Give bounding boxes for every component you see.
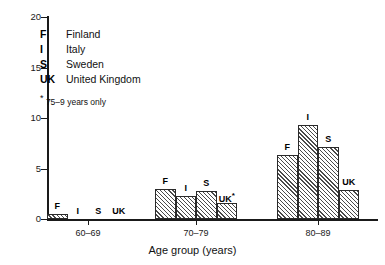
y-tick-label: 0: [19, 214, 41, 224]
bar-label: S: [325, 135, 331, 144]
bar: [318, 147, 339, 219]
bar-label: F: [55, 202, 61, 211]
bar-label: I: [184, 184, 187, 193]
footnote-star-icon: *: [40, 93, 44, 103]
bar-label: I: [306, 113, 309, 122]
bar-label: UK: [112, 207, 125, 216]
bar-label: UK*: [219, 191, 235, 204]
x-axis-line: [47, 219, 378, 221]
bar-label: F: [285, 143, 291, 152]
y-tick: 0: [0, 219, 47, 220]
bar: [155, 189, 176, 219]
bar-label: F: [163, 177, 169, 186]
y-tick-label: 15: [19, 63, 41, 73]
y-tick: 20: [0, 17, 47, 18]
y-tick-mark: [41, 17, 47, 18]
legend-item-label: Finland: [66, 28, 100, 41]
bar-label: UK: [342, 178, 355, 187]
bar: [339, 190, 360, 219]
bar-label: I: [76, 207, 79, 216]
bar-label: S: [203, 179, 209, 188]
y-tick-mark: [41, 169, 47, 170]
bar: [298, 125, 319, 219]
legend-item: SSweden: [40, 58, 141, 73]
legend-item-label: United Kingdom: [66, 73, 141, 86]
x-tick-mark: [318, 221, 319, 225]
legend: FFinlandIItalySSwedenUKUnited Kingdom * …: [40, 28, 141, 108]
legend-item-label: Italy: [66, 43, 85, 56]
bar-label-star-icon: *: [232, 191, 235, 200]
bar: [176, 196, 197, 219]
x-group-label: 60–69: [75, 228, 100, 238]
legend-item-key: I: [40, 43, 66, 56]
bar: [277, 155, 298, 219]
legend-item-key: S: [40, 58, 66, 71]
x-group-label: 80–89: [305, 228, 330, 238]
y-tick: 10: [0, 118, 47, 119]
x-tick-mark: [196, 221, 197, 225]
y-tick-mark: [41, 118, 47, 119]
y-tick: 5: [0, 169, 47, 170]
legend-item: UKUnited Kingdom: [40, 73, 141, 88]
bar-label: S: [95, 207, 101, 216]
x-axis-title: Age group (years): [0, 244, 385, 256]
legend-item: IItaly: [40, 43, 141, 58]
x-tick-mark: [88, 221, 89, 225]
bar-chart: 05101520 60–6970–7980–89 Age group (year…: [0, 0, 385, 265]
y-tick-label: 10: [19, 113, 41, 123]
bar: [47, 214, 68, 219]
y-tick-label: 20: [19, 12, 41, 22]
legend-item: FFinland: [40, 28, 141, 43]
bar: [196, 191, 217, 219]
legend-item-label: Sweden: [66, 58, 104, 71]
bar: [217, 203, 238, 219]
legend-item-key: UK: [40, 73, 66, 86]
legend-item-key: F: [40, 28, 66, 41]
y-tick-label: 5: [19, 164, 41, 174]
legend-footnote: * 75–9 years only: [40, 93, 141, 108]
footnote-text: 75–9 years only: [46, 97, 106, 107]
x-group-label: 70–79: [183, 228, 208, 238]
